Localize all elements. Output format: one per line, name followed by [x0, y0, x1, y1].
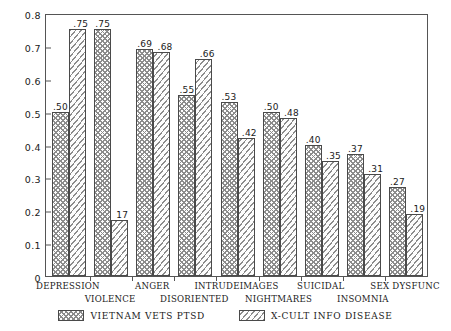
legend-item[interactable]: VIETNAM VETS PTSD [58, 310, 205, 321]
bar-value-label: .69 [137, 39, 152, 49]
y-axis-tick-label: 0.7 [25, 42, 41, 53]
bar-group: .53.42 [220, 15, 256, 276]
bar-value-label: .31 [368, 164, 383, 174]
bar[interactable]: .48 [280, 118, 297, 276]
bar-group: .27.19 [388, 15, 424, 276]
bars-layer: .50.75.7517.69.68.55.66.53.42.50.48.40.3… [46, 15, 427, 276]
legend-item-label: VIETNAM VETS PTSD [90, 311, 205, 321]
legend-swatch-icon [239, 310, 265, 321]
bar-value-label: .50 [53, 102, 68, 112]
bar-group: .69.68 [135, 15, 171, 276]
chart-legend: VIETNAM VETS PTSDX-CULT INFO DISEASE [0, 310, 451, 321]
bar-group: .7517 [93, 15, 129, 276]
bar-value-label: 17 [116, 210, 128, 220]
bar-value-label: .75 [95, 19, 110, 29]
legend-item[interactable]: X-CULT INFO DISEASE [239, 310, 393, 321]
bar-value-label: .50 [264, 102, 279, 112]
plot-area: 0.80.70.60.50.40.30.20.10 .50.75.7517.69… [45, 14, 428, 277]
x-axis-category-label: ANGER [135, 281, 170, 291]
y-axis-tick-label: 0.2 [25, 207, 41, 218]
bar-value-label: .35 [326, 151, 341, 161]
bar[interactable]: .37 [347, 154, 364, 276]
bar[interactable]: .66 [195, 59, 212, 276]
bar-value-label: .48 [284, 108, 299, 118]
bar[interactable]: .50 [52, 112, 69, 276]
y-axis-tick-label: 0.5 [25, 108, 41, 119]
x-axis-category-label: VIOLENCE [85, 294, 136, 304]
bar[interactable]: .35 [322, 161, 339, 276]
bar-group: .55.66 [177, 15, 213, 276]
x-axis-category-label: INSOMNIA [337, 294, 389, 304]
bar-value-label: .40 [306, 135, 321, 145]
bar-value-label: .68 [158, 42, 173, 52]
bar[interactable]: 17 [111, 220, 128, 276]
x-axis-category-label: NIGHTMARES [245, 294, 312, 304]
bar[interactable]: .19 [406, 214, 423, 276]
bar[interactable]: .55 [178, 95, 195, 276]
x-axis-category-label: DISORIENTED [160, 294, 229, 304]
bar-group: .40.35 [304, 15, 340, 276]
bar[interactable]: .68 [153, 52, 170, 276]
x-axis-category-label: DEPRESSION [36, 281, 100, 291]
bar-value-label: .37 [348, 144, 363, 154]
y-axis-tick-label: 0.8 [25, 10, 41, 21]
bar-group: .50.75 [51, 15, 87, 276]
bar-group: .37.31 [346, 15, 382, 276]
bar-value-label: .27 [390, 177, 405, 187]
legend-swatch-icon [58, 310, 84, 321]
bar[interactable]: .69 [136, 49, 153, 276]
bar-value-label: .19 [410, 204, 425, 214]
bar-value-label: .55 [179, 85, 194, 95]
y-axis-tick-label: 0.6 [25, 75, 41, 86]
bar-value-label: .53 [222, 92, 237, 102]
x-axis-tick-mark [132, 276, 133, 281]
bar[interactable]: .53 [221, 102, 238, 276]
grouped-bar-chart: 0.80.70.60.50.40.30.20.10 .50.75.7517.69… [0, 0, 451, 331]
bar[interactable]: .75 [94, 29, 111, 276]
x-axis-category-label: SEX DYSFUNC [370, 281, 440, 291]
y-axis-tick-label: 0.3 [25, 174, 41, 185]
bar[interactable]: .75 [69, 29, 86, 276]
y-axis-tick-label: 0.1 [25, 240, 41, 251]
bar[interactable]: .27 [389, 187, 406, 276]
bar-group: .50.48 [262, 15, 298, 276]
legend-item-label: X-CULT INFO DISEASE [271, 311, 393, 321]
bar[interactable]: .50 [263, 112, 280, 276]
x-axis-category-label: INTRUDEIMAGES [194, 281, 278, 291]
bar[interactable]: .40 [305, 145, 322, 277]
bar[interactable]: .31 [364, 174, 381, 276]
bar-value-label: .42 [242, 128, 257, 138]
y-axis-tick-label: 0.4 [25, 141, 41, 152]
bar[interactable]: .42 [238, 138, 255, 276]
bar-value-label: .75 [73, 19, 88, 29]
bar-value-label: .66 [200, 49, 215, 59]
x-axis-tick-mark [174, 276, 175, 281]
x-axis-category-label: SUICIDAL [297, 281, 344, 291]
